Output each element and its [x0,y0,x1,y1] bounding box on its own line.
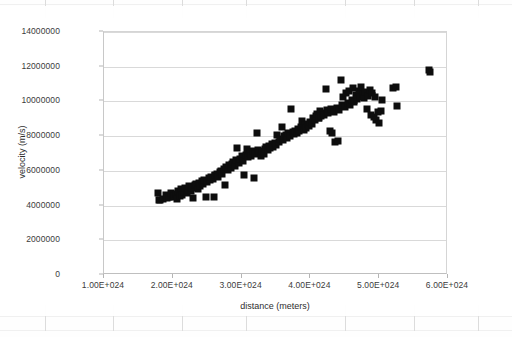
scatter-chart[interactable]: 0200000040000006000000800000010000000120… [0,6,512,316]
data-point-marker [250,174,257,181]
data-point-marker [334,137,341,144]
data-point-marker [427,68,434,75]
y-axis-tick-label: 2000000 [0,234,60,244]
data-point-marker [234,144,241,151]
y-axis-tick-mark [99,169,103,170]
x-axis-tick-mark [309,274,310,278]
gridline [104,206,446,207]
y-axis-title: velocity (m/s) [17,125,27,178]
data-point-marker [211,194,218,201]
data-point-marker [222,182,229,189]
x-axis-tick-label: 1.00E+024 [82,280,124,290]
data-point-marker [377,107,384,114]
x-axis-tick-mark [172,274,173,278]
data-point-marker [378,97,385,104]
gridline [104,67,446,68]
x-axis-tick-mark [378,274,379,278]
data-point-marker [322,86,329,93]
data-point-marker [288,106,295,113]
y-axis-tick-label: 0 [0,269,60,279]
x-axis-tick-mark [103,274,104,278]
x-axis-tick-label: 2.00E+024 [151,280,193,290]
y-axis-tick-label: 12000000 [0,61,60,71]
sheet-gridline [0,4,512,5]
data-point-marker [202,194,209,201]
x-axis-tick-label: 3.00E+024 [219,280,261,290]
data-point-marker [190,194,197,201]
data-point-marker [392,84,399,91]
data-point-marker [253,129,260,136]
y-axis-tick-mark [99,100,103,101]
gridline [104,171,446,172]
data-point-marker [394,102,401,109]
plot-area [103,31,447,274]
y-axis-tick-mark [99,135,103,136]
x-axis-tick-label: 6.00E+024 [426,280,468,290]
data-point-marker [337,76,344,83]
y-axis-tick-mark [99,65,103,66]
x-axis-tick-mark [241,274,242,278]
y-axis-tick-label: 10000000 [0,95,60,105]
y-axis-tick-mark [99,239,103,240]
y-axis-tick-mark [99,31,103,32]
data-point-marker [376,119,383,126]
y-axis-tick-label: 8000000 [0,130,60,140]
gridline [104,32,446,33]
x-axis-tick-label: 5.00E+024 [357,280,399,290]
sheet-gridline [0,330,512,331]
y-axis-tick-label: 6000000 [0,165,60,175]
x-axis-title: distance (meters) [103,301,447,311]
sheet-gridline [0,316,512,317]
x-axis-tick-label: 4.00E+024 [288,280,330,290]
y-axis-tick-label: 14000000 [0,26,60,36]
x-axis-tick-mark [447,274,448,278]
data-point-marker [241,171,248,178]
gridline [104,240,446,241]
y-axis-tick-label: 4000000 [0,200,60,210]
data-point-marker [329,130,336,137]
y-axis-tick-mark [99,204,103,205]
